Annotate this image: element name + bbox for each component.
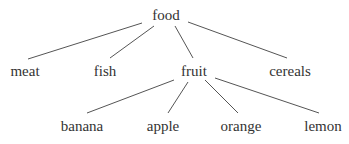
edge-fruit-banana	[87, 80, 174, 113]
edge-food-fruit	[175, 26, 193, 58]
node-fish: fish	[94, 64, 117, 79]
node-apple: apple	[147, 119, 179, 134]
node-food: food	[152, 8, 180, 23]
node-meat: meat	[10, 64, 39, 79]
node-fruit: fruit	[181, 64, 207, 79]
edge-food-cereals	[188, 22, 287, 58]
edge-fruit-orange	[205, 80, 238, 113]
node-lemon: lemon	[304, 119, 342, 134]
node-cereals: cereals	[269, 64, 311, 79]
tree-diagram: food meat fish fruit cereals banana appl…	[0, 0, 349, 144]
edge-fruit-apple	[168, 82, 188, 113]
edge-food-meat	[28, 23, 142, 59]
node-orange: orange	[221, 119, 262, 134]
node-banana: banana	[61, 119, 103, 134]
edge-fruit-lemon	[215, 78, 319, 113]
